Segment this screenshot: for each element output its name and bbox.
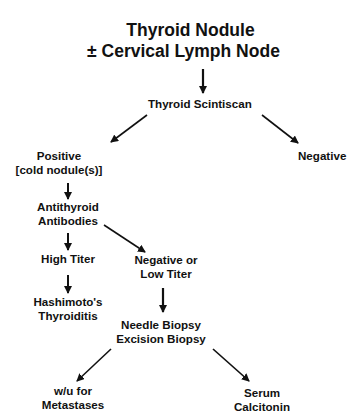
arrow-biopsy-to-wu — [77, 349, 111, 381]
arrow-biopsy-to-calcitonin — [213, 349, 249, 381]
arrow-antibodies-to-negLow — [104, 225, 145, 252]
arrows-layer — [0, 0, 359, 420]
arrow-scintiscan-to-positive — [111, 115, 147, 142]
arrow-scintiscan-to-negative — [262, 115, 298, 143]
